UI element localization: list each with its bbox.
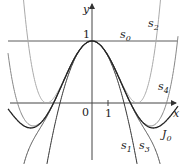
origin-label: 0: [82, 106, 89, 119]
svg-text:J0: J0: [160, 128, 172, 143]
curve-label-s4: s4: [158, 80, 169, 95]
bessel-diagram: y x 0 1 1 s0 s2 s4 J0 s1 s3: [0, 0, 184, 164]
curve-label-s1: s1: [121, 139, 132, 154]
svg-text:s1: s1: [121, 139, 132, 154]
x-axis-label: x: [173, 107, 180, 120]
y-tick-label: 1: [83, 28, 90, 41]
svg-text:s3: s3: [139, 139, 150, 154]
curve-label-s3: s3: [139, 139, 150, 154]
curve-label-s0: s0: [120, 28, 131, 43]
curve-s4: [8, 36, 178, 126]
x-tick-label: 1: [105, 107, 112, 120]
svg-text:s4: s4: [158, 80, 169, 95]
curve-label-s2: s2: [148, 17, 159, 32]
curve-J0: [8, 41, 178, 128]
svg-text:s0: s0: [120, 28, 131, 43]
curve-label-J0: J0: [160, 128, 172, 143]
y-axis-label: y: [82, 3, 90, 16]
svg-text:s2: s2: [148, 17, 159, 32]
